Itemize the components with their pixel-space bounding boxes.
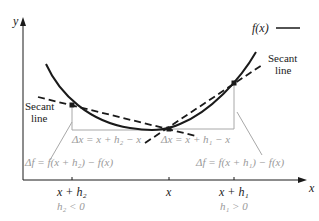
secant-label-right-1: Secant xyxy=(268,53,297,64)
leader-line-left xyxy=(50,122,72,160)
point-x-plus-h1 xyxy=(232,81,237,86)
secant-diagram: y x f(x) Secant line Secant line Δx = x … xyxy=(0,0,319,221)
y-axis-arrow-icon xyxy=(20,17,26,26)
x-axis-label: x xyxy=(309,182,314,194)
x-axis-arrow-icon xyxy=(298,177,307,183)
secant-label-left-1: Secant xyxy=(25,101,54,112)
delta-f-right-label: Δf = f(x + h₁) − f(x) xyxy=(196,157,284,168)
secant-label-left-2: line xyxy=(31,113,48,124)
condition-h1: h₁ > 0 xyxy=(220,201,248,212)
point-x xyxy=(167,127,172,132)
delta-f-left-label: Δf = f(x + h₂) − f(x) xyxy=(25,157,113,168)
secant-label-right-2: line xyxy=(275,65,292,76)
point-x-plus-h2 xyxy=(70,103,75,108)
y-axis-label: y xyxy=(13,15,18,27)
tick-label-x-plus-h2: x + h₂ xyxy=(57,186,87,198)
tick-label-x: x xyxy=(166,186,171,198)
delta-x-right-label: Δx = x + h₁ − x xyxy=(161,134,230,145)
secant-line-right xyxy=(145,65,262,143)
legend-label: f(x) xyxy=(252,22,269,34)
function-curve xyxy=(46,52,256,130)
condition-h2: h₂ < 0 xyxy=(57,201,85,212)
delta-x-left-label: Δx = x + h₂ − x xyxy=(72,134,141,145)
leader-line-right xyxy=(237,112,262,155)
tick-label-x-plus-h1: x + h₁ xyxy=(219,186,249,198)
